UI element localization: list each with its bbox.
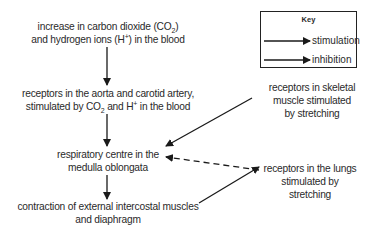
arrow-lungs-to-centre-inhibition bbox=[166, 157, 259, 170]
key-title: Key bbox=[261, 15, 356, 24]
key-arrows bbox=[264, 24, 319, 74]
arrow-skeletal-to-centre bbox=[166, 98, 252, 146]
key-inhibition-label: inhibition bbox=[312, 54, 351, 65]
arrow-contraction-to-lungs bbox=[199, 167, 259, 203]
key-legend: Key stimulation inhibition bbox=[260, 11, 357, 68]
key-stimulation-label: stimulation bbox=[312, 35, 360, 46]
